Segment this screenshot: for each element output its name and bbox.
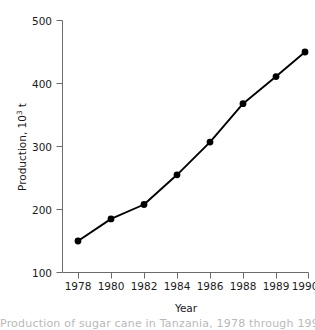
y-tick-label-100: 100	[32, 267, 52, 279]
x-tick-label-1984: 1984	[164, 280, 191, 292]
data-point-1982	[141, 201, 148, 208]
data-point-1989	[273, 73, 280, 80]
svg-text:Production, 103 t: Production, 103 t	[15, 103, 28, 191]
data-point-1980	[108, 216, 115, 223]
x-tick-label-1988: 1988	[230, 280, 257, 292]
x-tick-label-1978: 1978	[65, 280, 92, 292]
data-point-1990	[302, 49, 309, 56]
x-axis-tick-labels: 1978 1980 1982 1984 1986 1988 1989 1990	[65, 280, 315, 292]
y-axis-title: Production, 103 t	[15, 103, 28, 191]
x-tick-label-1980: 1980	[98, 280, 125, 292]
production-line-chart: 500 400 300 200 100 1978 1980 1982 1984 …	[0, 0, 315, 330]
y-axis-title-text: Production, 10	[16, 115, 28, 191]
x-tick-label-1990: 1990	[292, 280, 315, 292]
x-tick-label-1989: 1989	[263, 280, 290, 292]
x-axis-title: Year	[174, 302, 198, 314]
y-tick-label-300: 300	[32, 141, 52, 153]
x-tick-label-1982: 1982	[131, 280, 158, 292]
y-axis-title-unit: t	[16, 103, 28, 110]
data-point-1984	[174, 171, 181, 178]
x-tick-label-1986: 1986	[197, 280, 224, 292]
data-point-1978	[75, 238, 82, 245]
y-tick-label-400: 400	[32, 78, 52, 90]
data-point-1986	[207, 139, 214, 146]
figure-container: 500 400 300 200 100 1978 1980 1982 1984 …	[0, 0, 315, 330]
figure-caption-partial: Production of sugar cane in Tanzania, 19…	[0, 318, 315, 330]
data-point-1988	[240, 100, 247, 107]
y-tick-label-200: 200	[32, 204, 52, 216]
y-tick-label-500: 500	[32, 15, 52, 27]
